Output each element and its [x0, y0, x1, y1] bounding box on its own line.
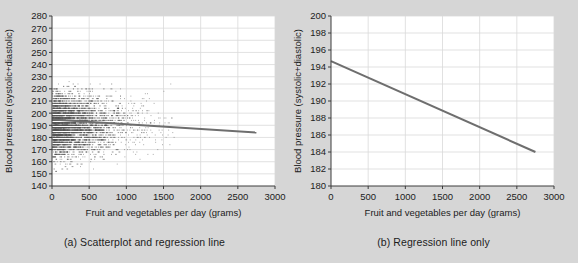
y-axis-ticks: 180182184186188190192194196198200: [310, 10, 331, 191]
y-tick-label: 160: [31, 156, 47, 167]
y-tick-label: 180: [31, 132, 47, 143]
x-tick-label: 1000: [116, 191, 137, 202]
x-tick-label: 0: [328, 191, 333, 202]
y-tick-label: 250: [31, 47, 47, 58]
panel-b-caption: (b) Regression line only: [289, 236, 578, 248]
y-tick-label: 200: [310, 10, 326, 21]
x-tick-label: 1000: [395, 191, 416, 202]
y-tick-label: 194: [310, 61, 326, 72]
y-tick-label: 270: [31, 23, 47, 34]
y-tick-label: 184: [310, 146, 326, 157]
x-axis-title: Fruit and vegetables per day (grams): [365, 207, 521, 218]
y-tick-label: 196: [310, 44, 326, 55]
y-tick-label: 170: [31, 144, 47, 155]
y-axis-ticks: 1401501601701801902002102202302402502602…: [31, 10, 52, 191]
x-tick-label: 2000: [190, 191, 211, 202]
x-tick-label: 0: [49, 191, 54, 202]
x-tick-label: 500: [360, 191, 376, 202]
y-tick-label: 198: [310, 27, 326, 38]
panel-scatterplot: 1401501601701801902002102202302402502602…: [0, 0, 289, 263]
x-tick-label: 3000: [543, 191, 564, 202]
x-tick-label: 1500: [153, 191, 174, 202]
y-tick-label: 210: [31, 95, 47, 106]
panel-b-plot: 1801821841861881901921941961982000500100…: [289, 0, 578, 236]
x-tick-label: 3000: [264, 191, 285, 202]
x-axis-ticks: 050010001500200025003000: [49, 186, 285, 202]
panel-a-plot: 1401501601701801902002102202302402502602…: [0, 0, 289, 236]
x-tick-label: 1500: [432, 191, 453, 202]
y-tick-label: 182: [310, 163, 326, 174]
x-axis-title: Fruit and vegetables per day (grams): [86, 207, 242, 218]
y-tick-label: 140: [31, 180, 47, 191]
y-tick-label: 180: [310, 180, 326, 191]
y-tick-label: 186: [310, 129, 326, 140]
y-tick-label: 190: [310, 95, 326, 106]
y-tick-label: 230: [31, 71, 47, 82]
x-tick-label: 2500: [506, 191, 527, 202]
y-tick-label: 200: [31, 108, 47, 119]
y-tick-label: 150: [31, 168, 47, 179]
y-tick-label: 240: [31, 59, 47, 70]
y-tick-label: 192: [310, 78, 326, 89]
y-tick-label: 190: [31, 120, 47, 131]
y-tick-label: 280: [31, 10, 47, 21]
panel-a-caption: (a) Scatterplot and regression line: [0, 236, 289, 248]
y-axis-title: Blood pressure (systolic+diastolic): [3, 29, 14, 173]
y-tick-label: 260: [31, 35, 47, 46]
x-tick-label: 2500: [227, 191, 248, 202]
figure-container: 1401501601701801902002102202302402502602…: [0, 0, 578, 263]
x-tick-label: 500: [81, 191, 97, 202]
x-tick-label: 2000: [469, 191, 490, 202]
y-axis-title: Blood pressure (systolic+diastolic): [292, 29, 303, 173]
panel-regression-only: 1801821841861881901921941961982000500100…: [289, 0, 578, 263]
x-axis-ticks: 050010001500200025003000: [328, 186, 564, 202]
y-tick-label: 220: [31, 83, 47, 94]
y-tick-label: 188: [310, 112, 326, 123]
